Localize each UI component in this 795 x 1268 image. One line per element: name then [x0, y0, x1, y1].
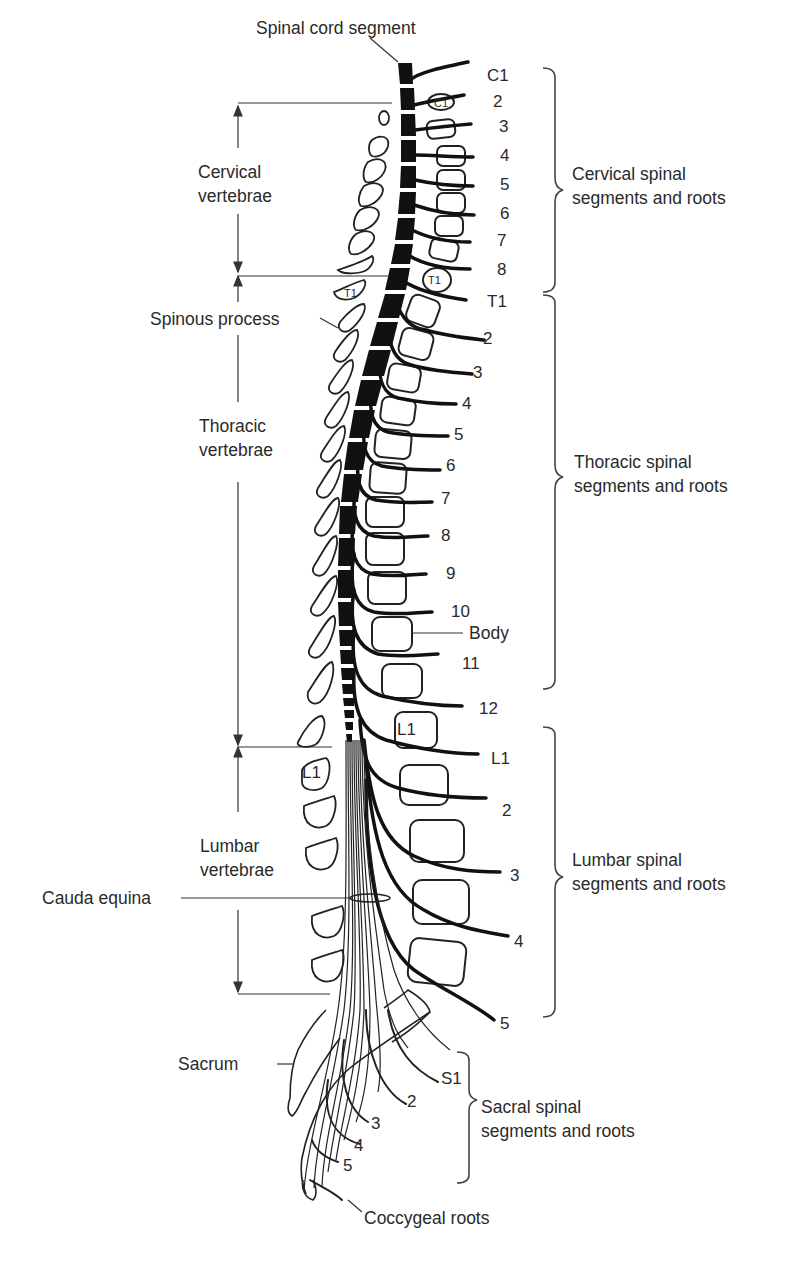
root-label-s2: 2 — [407, 1092, 416, 1112]
root-label-c5: 5 — [500, 175, 509, 195]
root-label-s3: 3 — [371, 1114, 380, 1134]
root-label-c7: 7 — [497, 231, 506, 251]
root-label-t3: 3 — [473, 363, 482, 383]
bracket-lumbar — [543, 727, 563, 1017]
vertebra-tag-t1-body: T1 — [428, 274, 441, 286]
cauda-equina-label: Cauda equina — [42, 888, 151, 909]
lumbar-group-label-line2: segments and roots — [572, 874, 726, 895]
root-label-t4: 4 — [462, 394, 471, 414]
root-label-t6: 6 — [446, 456, 455, 476]
root-label-l4: 4 — [514, 932, 523, 952]
spinal-cord-segment-label: Spinal cord segment — [256, 18, 416, 39]
root-label-s4: 4 — [354, 1136, 363, 1156]
root-label-t2: 2 — [483, 329, 492, 349]
body-label: Body — [469, 623, 509, 644]
root-label-t9: 9 — [446, 564, 455, 584]
lumbar-vertebrae-label-line1: Lumbar — [200, 836, 259, 857]
root-label-c1: C1 — [487, 66, 509, 86]
cervical-vertebrae-label-line1: Cervical — [198, 162, 261, 183]
root-label-l2: 2 — [502, 801, 511, 821]
vertebra-tag-t1-process: T1 — [344, 287, 357, 299]
root-label-c2: 2 — [493, 92, 502, 112]
root-label-t8: 8 — [441, 526, 450, 546]
root-label-c8: 8 — [497, 260, 506, 280]
dimension-lines — [181, 38, 463, 1212]
root-label-t10: 10 — [451, 602, 470, 622]
cauda-equina-band — [350, 894, 390, 902]
spinous-process-label: Spinous process — [150, 309, 279, 330]
root-label-t12: 12 — [479, 699, 498, 719]
thoracic-group-label-line2: segments and roots — [574, 476, 728, 497]
root-label-t7: 7 — [441, 489, 450, 509]
root-label-l3: 3 — [510, 866, 519, 886]
bracket-cervical — [543, 68, 563, 292]
root-label-s5: 5 — [343, 1156, 352, 1176]
vertebra-tag-c1: C1 — [434, 97, 448, 109]
root-label-t1: T1 — [487, 292, 507, 312]
sacral-group-label-line1: Sacral spinal — [481, 1097, 581, 1118]
thoracic-vertebrae-label-line2: vertebrae — [199, 440, 273, 461]
root-label-c3: 3 — [499, 117, 508, 137]
root-label-l1: L1 — [491, 749, 510, 769]
coccygeal-roots-label: Coccygeal roots — [364, 1208, 489, 1229]
root-label-t5: 5 — [454, 425, 463, 445]
root-label-s1: S1 — [441, 1069, 462, 1089]
thoracic-group-label-line1: Thoracic spinal — [574, 452, 692, 473]
bracket-thoracic — [543, 295, 563, 689]
root-label-c6: 6 — [500, 204, 509, 224]
nerve-roots-sacral — [310, 1010, 438, 1200]
lumbar-vertebrae-label-line2: vertebrae — [200, 860, 274, 881]
sacral-group-label-line2: segments and roots — [481, 1121, 635, 1142]
cervical-group-label-line2: segments and roots — [572, 188, 726, 209]
sacrum-label: Sacrum — [178, 1054, 238, 1075]
root-label-l5: 5 — [500, 1014, 509, 1034]
cervical-vertebrae-label-line2: vertebrae — [198, 186, 272, 207]
root-label-c4: 4 — [500, 146, 509, 166]
thoracic-vertebrae-label-line1: Thoracic — [199, 416, 266, 437]
cervical-group-label-line1: Cervical spinal — [572, 164, 686, 185]
root-label-t11: 11 — [462, 654, 480, 674]
vertebra-tag-l1-process: L1 — [302, 763, 321, 783]
lumbar-group-label-line1: Lumbar spinal — [572, 850, 682, 871]
vertebra-tag-l1-body: L1 — [397, 720, 416, 740]
